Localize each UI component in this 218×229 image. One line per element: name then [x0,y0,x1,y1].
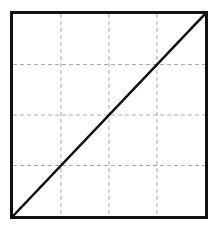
figure-container [0,0,218,229]
plot-inner-canvas [13,14,205,216]
series-line-0 [13,14,205,216]
plot-area [10,11,208,219]
data-series-group [13,14,205,216]
series-identity-line [13,14,205,216]
